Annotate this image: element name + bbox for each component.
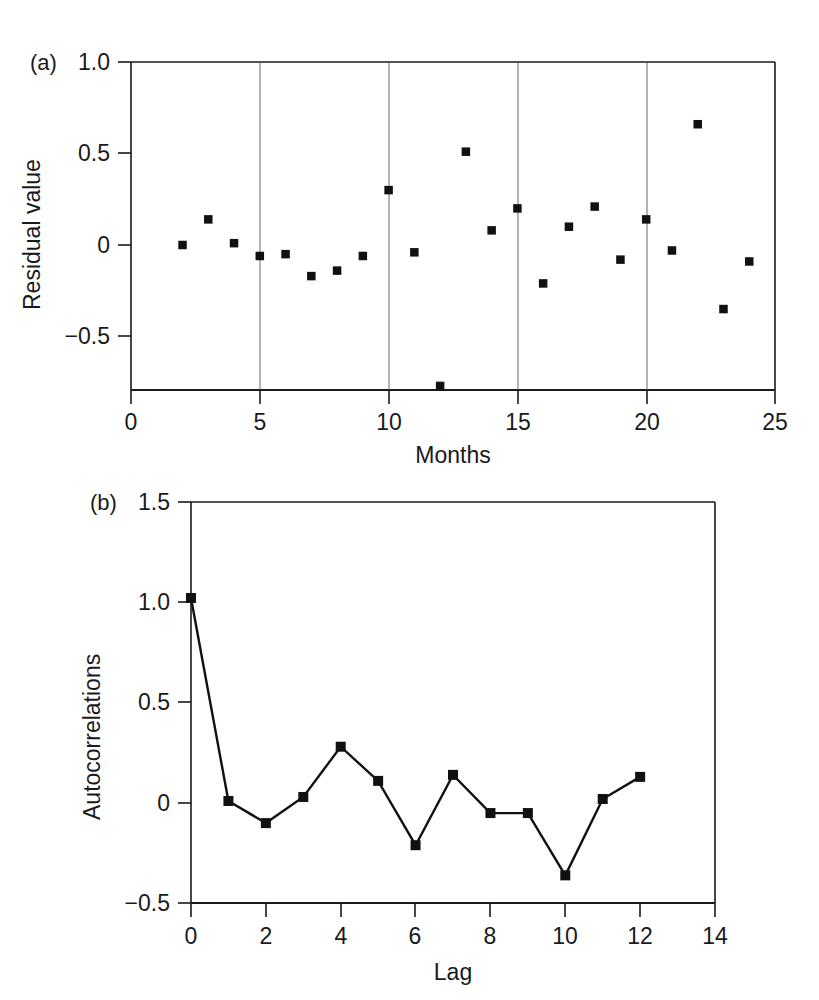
panel-a-yticklabel-1: 0.5 bbox=[78, 140, 110, 166]
panel-b-xticklabel-0: 0 bbox=[185, 923, 198, 949]
panel-b: (b) Autocorrelations 1.5 1.0 0.5 0 −0.5 bbox=[0, 470, 819, 1000]
panel-b-data-markers bbox=[186, 593, 645, 880]
data-point-lag-1 bbox=[223, 796, 233, 806]
data-point-lag-0 bbox=[186, 593, 196, 603]
panel-b-xticklabel-1: 2 bbox=[260, 923, 273, 949]
panel-b-line-series bbox=[191, 598, 640, 875]
data-point-month-7 bbox=[307, 272, 316, 281]
data-point-month-5 bbox=[256, 252, 264, 260]
panel-b-xticklabel-4: 8 bbox=[484, 923, 497, 949]
panel-b-xticklabel-5: 10 bbox=[552, 923, 578, 949]
figure-container: (a) Residual value 1.0 0.5 0 −0.5 bbox=[0, 0, 819, 1000]
panel-a-xticklabel-2: 10 bbox=[376, 409, 402, 435]
panel-a-xticklabel-5: 25 bbox=[762, 409, 788, 435]
data-point-lag-2 bbox=[261, 818, 271, 828]
panel-a-x-axis-title: Months bbox=[415, 442, 490, 468]
data-point-month-4 bbox=[230, 239, 239, 248]
data-point-lag-7 bbox=[448, 770, 458, 780]
panel-b-yticklabel-0: 1.5 bbox=[138, 489, 170, 515]
panel-a-yticklabel-0: 1.0 bbox=[78, 49, 110, 75]
data-point-lag-9 bbox=[523, 808, 533, 818]
panel-a-data-series bbox=[178, 120, 753, 390]
data-point-month-17 bbox=[565, 222, 574, 231]
panel-a-label: (a) bbox=[30, 50, 57, 75]
data-point-month-24 bbox=[745, 257, 754, 266]
panel-b-label: (b) bbox=[90, 490, 117, 515]
panel-a-xticklabel-4: 20 bbox=[634, 409, 660, 435]
panel-b-plot: (b) Autocorrelations 1.5 1.0 0.5 0 −0.5 bbox=[0, 470, 819, 1000]
data-point-month-22 bbox=[693, 120, 702, 129]
data-point-month-14 bbox=[487, 226, 496, 235]
panel-a-plot: (a) Residual value 1.0 0.5 0 −0.5 bbox=[0, 0, 819, 470]
panel-b-yticklabel-3: 0 bbox=[157, 790, 170, 816]
panel-a-yticklabel-2: 0 bbox=[97, 232, 110, 258]
data-point-month-9 bbox=[359, 252, 368, 260]
data-point-month-18 bbox=[590, 202, 599, 211]
panel-b-y-axis-title: Autocorrelations bbox=[79, 654, 105, 820]
data-point-lag-5 bbox=[373, 776, 383, 786]
panel-a-y-axis-title: Residual value bbox=[19, 159, 45, 310]
panel-b-yticklabel-2: 0.5 bbox=[138, 689, 170, 715]
data-point-month-12 bbox=[436, 382, 445, 391]
data-point-month-23 bbox=[719, 305, 728, 314]
data-point-month-13 bbox=[462, 147, 471, 156]
panel-b-xticklabel-6: 12 bbox=[627, 923, 653, 949]
panel-b-yticklabel-1: 1.0 bbox=[138, 589, 170, 615]
data-point-lag-11 bbox=[598, 794, 608, 804]
panel-b-xticklabel-7: 14 bbox=[702, 923, 728, 949]
panel-b-yticklabel-4: −0.5 bbox=[125, 890, 170, 916]
panel-a-xticklabel-0: 0 bbox=[125, 409, 138, 435]
data-point-month-2 bbox=[178, 241, 187, 250]
data-point-lag-3 bbox=[298, 792, 308, 802]
panel-a-yticklabel-3: −0.5 bbox=[65, 323, 110, 349]
panel-a: (a) Residual value 1.0 0.5 0 −0.5 bbox=[0, 0, 819, 470]
data-point-lag-10 bbox=[560, 870, 570, 880]
panel-a-xticklabel-1: 5 bbox=[254, 409, 267, 435]
data-point-lag-8 bbox=[485, 808, 495, 818]
data-point-month-21 bbox=[668, 246, 677, 255]
data-point-lag-4 bbox=[336, 742, 346, 752]
data-point-month-11 bbox=[410, 248, 419, 257]
panel-b-xticklabel-3: 6 bbox=[409, 923, 422, 949]
panel-b-xticklabel-2: 4 bbox=[335, 923, 348, 949]
data-point-lag-6 bbox=[411, 840, 421, 850]
data-point-month-10 bbox=[384, 186, 393, 195]
data-point-month-16 bbox=[539, 279, 548, 288]
data-point-month-19 bbox=[616, 255, 625, 264]
panel-b-x-axis-title: Lag bbox=[434, 959, 472, 985]
data-point-month-20 bbox=[642, 215, 651, 224]
data-point-month-6 bbox=[281, 250, 290, 259]
data-point-month-8 bbox=[333, 266, 342, 275]
data-point-month-3 bbox=[204, 215, 213, 224]
data-point-lag-12 bbox=[635, 772, 645, 782]
panel-a-xticklabel-3: 15 bbox=[505, 409, 531, 435]
data-point-month-15 bbox=[513, 204, 522, 213]
